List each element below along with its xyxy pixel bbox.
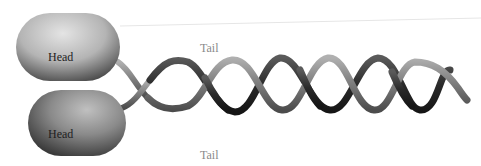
background-line (120, 18, 481, 26)
tail-top-label: Tail (200, 41, 219, 56)
head-bottom-label: Head (48, 127, 73, 142)
head-top-label: Head (48, 50, 73, 65)
head-bottom (28, 90, 126, 156)
head-top (16, 13, 120, 81)
tail-bottom-label: Tail (200, 148, 219, 163)
tail-strand-dark-over (205, 78, 228, 110)
